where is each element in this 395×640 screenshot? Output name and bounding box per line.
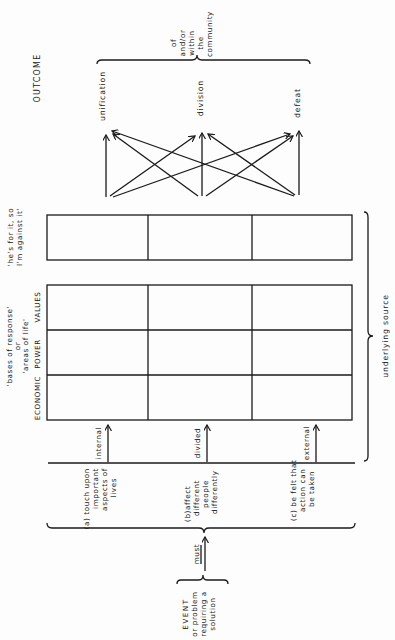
column-economic: ECONOMIC (33, 376, 42, 420)
svg-text:of: of (169, 39, 178, 47)
state-internal: internal (94, 427, 103, 459)
svg-text:the: the (196, 36, 205, 50)
svg-text:solution: solution (208, 597, 217, 630)
svg-text:I'm against it': I'm against it' (15, 208, 24, 266)
state-divided: divided (193, 428, 202, 459)
conditions-brace (47, 523, 355, 533)
svg-text:(b)affect: (b)affect (183, 486, 192, 522)
outcome-defeat: defeat (293, 88, 302, 118)
svg-text:lives: lives (109, 478, 118, 497)
community-state-arrows (108, 425, 316, 462)
outcome-arrows (106, 131, 299, 197)
community-scope-label: of and/or within the community (169, 11, 214, 57)
svg-text:differently: differently (210, 470, 219, 514)
svg-text:different: different (192, 480, 201, 516)
svg-text:aspects of: aspects of (100, 468, 109, 511)
svg-text:people: people (201, 480, 210, 508)
svg-text:community: community (205, 11, 214, 57)
svg-text:within: within (187, 30, 196, 55)
svg-text:and/or: and/or (178, 30, 187, 57)
outcome-title: OUTCOME (33, 54, 42, 103)
bases-grid (47, 285, 352, 420)
community-conflict-diagram: OUTCOME unification division defeat of a… (0, 0, 395, 640)
svg-text:'he's for it, so: 'he's for it, so (6, 208, 15, 266)
svg-text:'areas of life': 'areas of life' (21, 318, 30, 373)
svg-text:(c) be felt that: (c) be felt that (289, 460, 298, 521)
svg-text:action can: action can (298, 469, 307, 512)
rejection-label: 'he's for it, so I'm against it' (6, 208, 24, 266)
outcome-unification: unification (98, 71, 107, 121)
event-label: EVENT or problem requiring a solution (181, 591, 217, 637)
outcome-brace (97, 55, 310, 64)
event-brace (177, 575, 228, 584)
svg-text:EVENT: EVENT (181, 598, 190, 629)
column-power: POWER (33, 339, 42, 369)
underlying-source-label: underlying source (381, 294, 390, 378)
underlying-source-brace (364, 212, 373, 461)
svg-text:be taken: be taken (307, 471, 316, 507)
bases-of-response-label: 'bases of response' or 'areas of life' (5, 306, 30, 386)
state-external: external (302, 426, 311, 460)
column-values: VALUES (33, 292, 42, 323)
svg-text:requiring a: requiring a (199, 591, 208, 637)
condition-b: (b)affect different people differently (183, 470, 219, 522)
condition-a: (a) touch upon important aspects of live… (82, 468, 118, 529)
rejection-box (47, 215, 352, 260)
svg-text:important: important (91, 468, 100, 509)
svg-text:(a) touch upon: (a) touch upon (82, 468, 91, 529)
condition-c: (c) be felt that action can be taken (289, 460, 316, 521)
outcome-division: division (196, 80, 205, 116)
must-label: must (192, 544, 201, 565)
svg-text:or problem: or problem (190, 591, 199, 636)
